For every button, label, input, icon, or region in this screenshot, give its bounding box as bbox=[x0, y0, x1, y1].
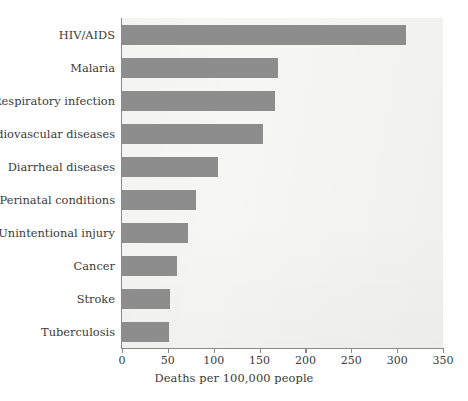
x-tick-label: 300 bbox=[387, 354, 408, 367]
bar bbox=[122, 124, 263, 144]
x-tick-mark bbox=[443, 348, 444, 353]
x-axis-line bbox=[121, 348, 444, 349]
x-tick-label: 50 bbox=[161, 354, 175, 367]
bar bbox=[122, 157, 218, 177]
category-label: Cardiovascular diseases bbox=[0, 124, 123, 144]
x-tick-label: 250 bbox=[341, 354, 362, 367]
bar-chart: HIV/AIDSMalariaRespiratory infectionCard… bbox=[0, 0, 468, 401]
x-tick-mark bbox=[305, 348, 306, 353]
x-axis-title: Deaths per 100,000 people bbox=[0, 371, 468, 385]
x-tick-label: 100 bbox=[203, 354, 224, 367]
category-label: Malaria bbox=[0, 58, 123, 78]
x-tick-mark bbox=[351, 348, 352, 353]
bar bbox=[122, 322, 169, 342]
category-label: Tuberculosis bbox=[0, 322, 123, 342]
category-label: Cancer bbox=[0, 256, 123, 276]
bar bbox=[122, 190, 196, 210]
x-tick-label: 0 bbox=[119, 354, 126, 367]
category-label: Stroke bbox=[0, 289, 123, 309]
x-tick-label: 150 bbox=[249, 354, 270, 367]
x-tick-mark bbox=[260, 348, 261, 353]
bar bbox=[122, 91, 275, 111]
category-label: Diarrheal diseases bbox=[0, 157, 123, 177]
x-tick-label: 200 bbox=[295, 354, 316, 367]
category-label: HIV/AIDS bbox=[0, 25, 123, 45]
bar bbox=[122, 256, 177, 276]
x-tick-mark bbox=[168, 348, 169, 353]
x-tick-mark bbox=[122, 348, 123, 353]
bar bbox=[122, 289, 170, 309]
x-tick-mark bbox=[214, 348, 215, 353]
category-label: Perinatal conditions bbox=[0, 190, 123, 210]
bar bbox=[122, 58, 278, 78]
x-tick-label: 350 bbox=[433, 354, 454, 367]
bar bbox=[122, 223, 188, 243]
category-label: Respiratory infection bbox=[0, 91, 123, 111]
x-tick-mark bbox=[397, 348, 398, 353]
bar bbox=[122, 25, 406, 45]
category-label: Unintentional injury bbox=[0, 223, 123, 243]
